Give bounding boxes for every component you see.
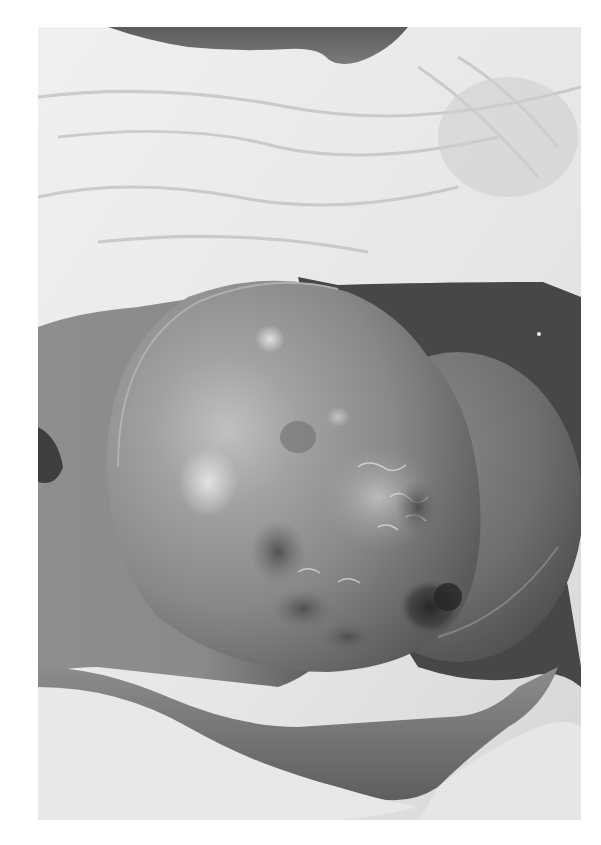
speck bbox=[537, 332, 541, 336]
mass-highlight-small bbox=[255, 325, 285, 353]
ulcer-dark-core bbox=[434, 583, 462, 611]
ulcer-left bbox=[250, 520, 306, 584]
sheet-shadow bbox=[438, 77, 578, 197]
mass-highlight-faint bbox=[326, 407, 350, 427]
ulcer-lower-left bbox=[273, 589, 333, 629]
mass-highlight bbox=[178, 447, 238, 517]
ulcer-lower-center bbox=[322, 622, 374, 652]
photo-scene bbox=[38, 27, 581, 820]
mass-dark-spot bbox=[280, 421, 316, 453]
ulcer-upper-right bbox=[396, 479, 440, 535]
photograph bbox=[38, 27, 581, 820]
